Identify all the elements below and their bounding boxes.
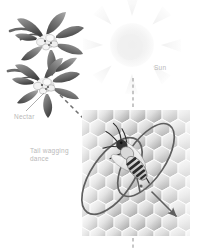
sun-icon (83, 0, 181, 94)
sun-disc-inner (117, 34, 143, 60)
label-sun: Sun (154, 64, 166, 72)
dance-path-node (139, 184, 142, 187)
flower-illustration-lower (8, 58, 80, 118)
label-dance-line-1: Tail wagging (30, 147, 69, 155)
label-tail-wagging-dance: Tail wagging dance (30, 147, 69, 163)
label-dance-line-2: dance (30, 155, 69, 163)
bee-dance-figure (0, 0, 199, 249)
label-nectar: Nectar (14, 113, 35, 121)
